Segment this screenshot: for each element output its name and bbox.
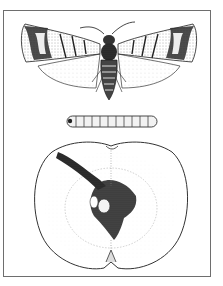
larva-icon xyxy=(67,116,157,127)
illustration xyxy=(0,0,223,286)
apple-icon xyxy=(35,142,188,269)
moth-icon xyxy=(21,22,196,100)
